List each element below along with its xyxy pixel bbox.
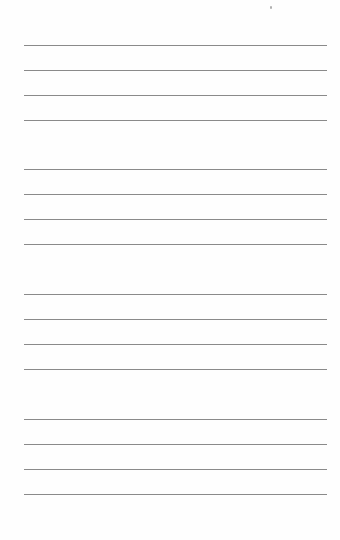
ruled-line	[24, 70, 327, 71]
lined-page	[0, 0, 340, 540]
ruled-line	[24, 45, 327, 46]
ruled-line	[24, 294, 327, 295]
ruled-line	[24, 344, 327, 345]
ruled-line	[24, 444, 327, 445]
ruled-line	[24, 419, 327, 420]
speck-mark	[270, 6, 272, 9]
ruled-line	[24, 244, 327, 245]
ruled-line	[24, 95, 327, 96]
ruled-line	[24, 494, 327, 495]
ruled-line	[24, 319, 327, 320]
ruled-line	[24, 369, 327, 370]
ruled-line	[24, 169, 327, 170]
ruled-line	[24, 120, 327, 121]
ruled-line	[24, 194, 327, 195]
ruled-line	[24, 219, 327, 220]
ruled-line	[24, 469, 327, 470]
